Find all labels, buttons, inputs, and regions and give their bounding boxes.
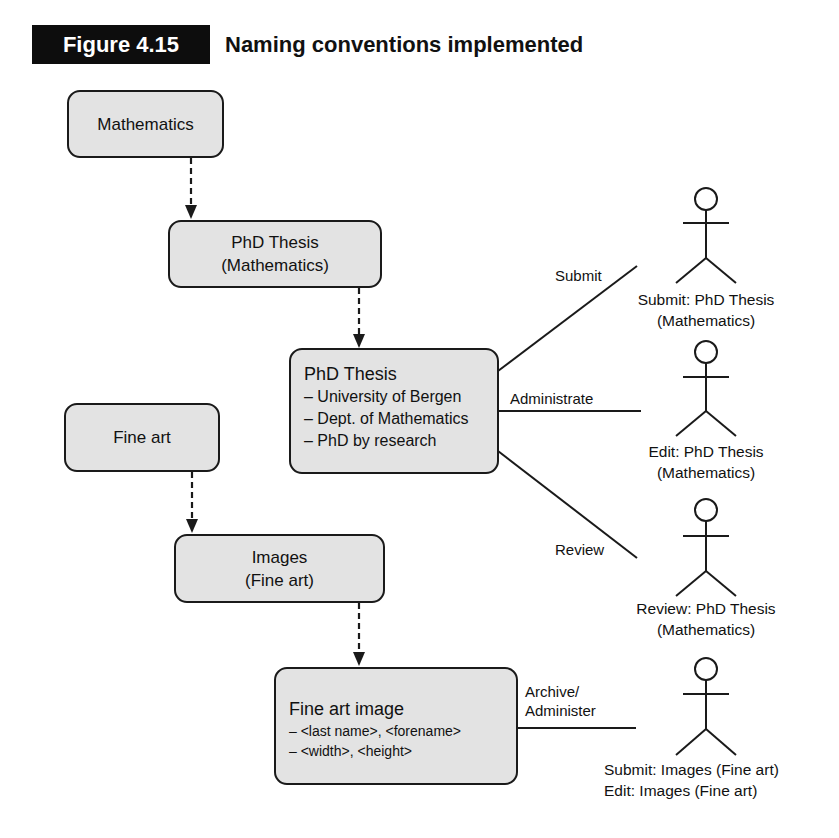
node-label: PhD Thesis — [231, 231, 319, 254]
actor-caption-line: Review: PhD Thesis — [612, 598, 800, 619]
node-fine-art-image: Fine art image – <last name>, <forename>… — [274, 667, 518, 785]
actor-caption: Edit: PhD Thesis (Mathematics) — [612, 441, 800, 483]
node-mathematics: Mathematics — [67, 90, 224, 158]
dashed-arrow-fineart-to-images — [186, 472, 198, 533]
node-title: Fine art image — [289, 697, 516, 721]
association-label-administrate: Administrate — [510, 389, 593, 408]
actor-caption-line: Submit: Images (Fine art) — [604, 759, 779, 780]
actor-icon — [676, 188, 736, 283]
actor-icon — [676, 499, 736, 596]
node-images-fine-art: Images (Fine art) — [174, 534, 385, 603]
node-label: Fine art — [113, 426, 171, 449]
association-label-line: Archive/ — [525, 682, 596, 701]
actor-icon — [676, 341, 736, 436]
actor-caption-line: (Mathematics) — [612, 462, 800, 483]
node-phd-thesis-mathematics: PhD Thesis (Mathematics) — [168, 220, 382, 288]
node-sublabel: (Fine art) — [245, 569, 314, 592]
node-label: Images — [252, 546, 308, 569]
association-label-review: Review — [555, 540, 604, 559]
dashed-arrow-thesis-to-detail — [353, 288, 365, 348]
actor-icon — [676, 658, 736, 755]
actor-caption-line: Edit: PhD Thesis — [612, 441, 800, 462]
node-label: Mathematics — [97, 113, 193, 136]
node-title: PhD Thesis — [304, 362, 497, 386]
node-attribute: – <last name>, <forename> — [289, 721, 516, 741]
dashed-arrow-images-to-fineartimage — [353, 603, 365, 666]
node-attribute: – PhD by research — [304, 430, 497, 452]
association-label-archive: Archive/ Administer — [525, 682, 596, 720]
node-attribute: – Dept. of Mathematics — [304, 408, 497, 430]
actor-caption: Submit: PhD Thesis (Mathematics) — [612, 289, 800, 331]
actor-caption-line: (Mathematics) — [612, 619, 800, 640]
node-attribute: – <width>, <height> — [289, 741, 516, 761]
node-attribute: – University of Bergen — [304, 386, 497, 408]
actor-caption: Submit: Images (Fine art) Edit: Images (… — [604, 759, 779, 801]
association-label-submit: Submit — [555, 266, 602, 285]
actor-caption-line: (Mathematics) — [612, 310, 800, 331]
node-fine-art: Fine art — [64, 403, 220, 472]
actor-caption: Review: PhD Thesis (Mathematics) — [612, 598, 800, 640]
actor-caption-line: Submit: PhD Thesis — [612, 289, 800, 310]
actor-caption-line: Edit: Images (Fine art) — [604, 780, 779, 801]
dashed-arrow-math-to-thesis — [185, 158, 197, 219]
association-label-line: Administer — [525, 701, 596, 720]
node-sublabel: (Mathematics) — [221, 254, 329, 277]
node-phd-thesis-detail: PhD Thesis – University of Bergen – Dept… — [289, 348, 499, 474]
